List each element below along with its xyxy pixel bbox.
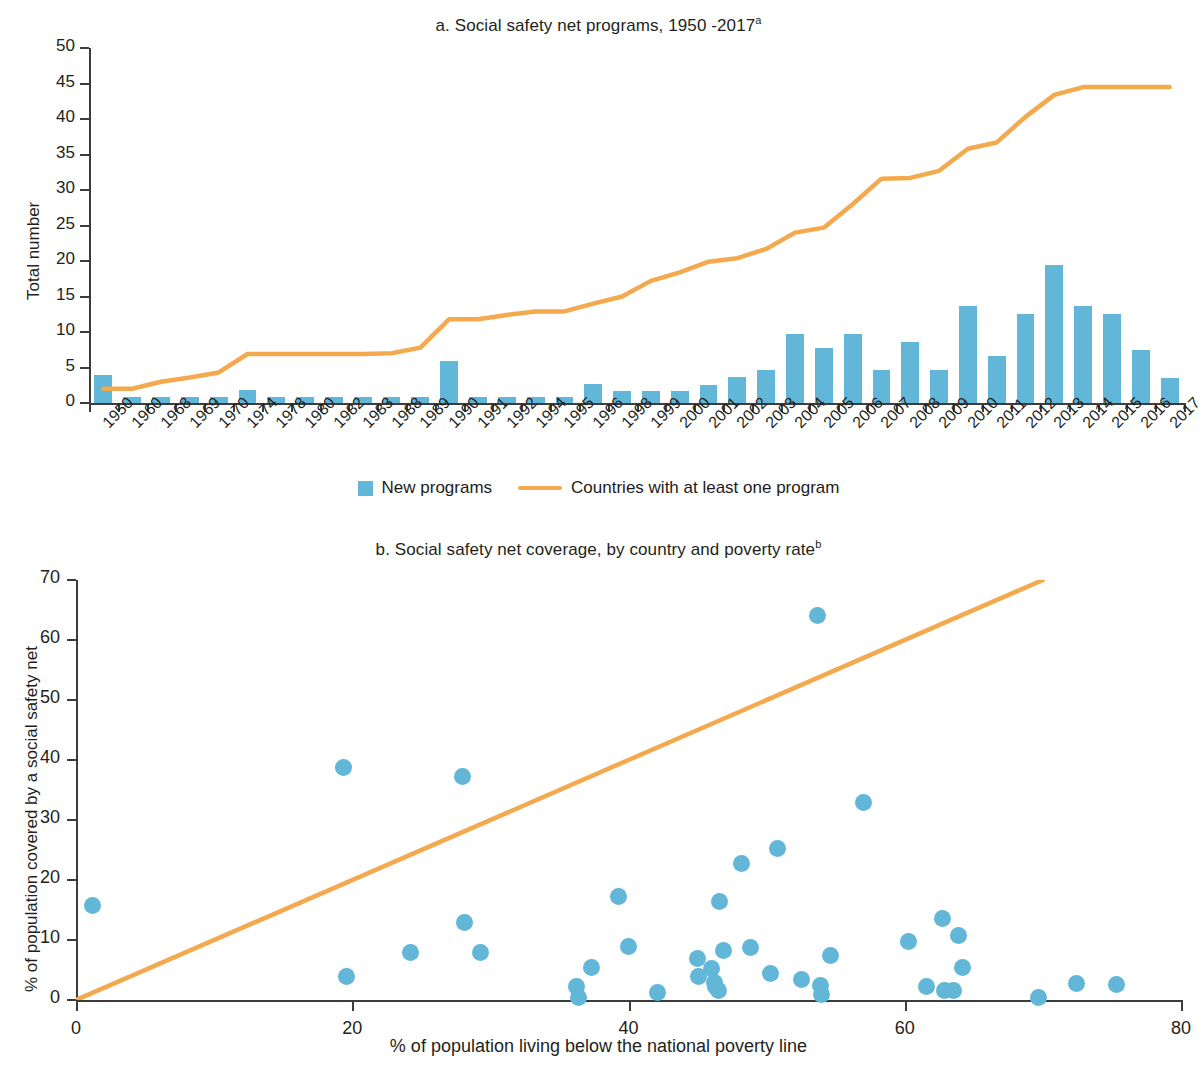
panel-a-y-tick <box>80 367 89 369</box>
panel-a-y-tick-label: 30 <box>23 178 75 198</box>
panel-a-legend: New programs Countries with at least one… <box>0 478 1197 498</box>
legend-item-new-programs: New programs <box>358 478 493 498</box>
panel-a-y-tick-label: 15 <box>23 285 75 305</box>
panel-a-y-tick <box>80 260 89 262</box>
scatter-point <box>900 933 917 950</box>
panel-a-y-tick <box>80 189 89 191</box>
panel-a-title-footnote-marker: a <box>755 14 761 26</box>
scatter-point <box>809 607 826 624</box>
panel-b-social-safety-net-coverage: b. Social safety net coverage, by countr… <box>0 522 1197 1071</box>
scatter-point <box>945 982 962 999</box>
panel-b-y-tick-label: 20 <box>6 867 60 888</box>
panel-b-plot-area <box>76 580 1181 1000</box>
panel-b-y-tick <box>67 759 76 761</box>
scatter-point <box>742 939 759 956</box>
panel-a-y-tick <box>80 296 89 298</box>
scatter-point <box>711 893 728 910</box>
reference-trend-line <box>76 580 1043 1000</box>
bar-2006 <box>844 334 862 403</box>
scatter-point <box>454 768 471 785</box>
panel-a-y-tick-label: 10 <box>23 320 75 340</box>
panel-b-x-tick <box>352 1000 354 1011</box>
panel-a-y-tick-label: 40 <box>23 107 75 127</box>
legend-label-countries: Countries with at least one program <box>571 478 839 498</box>
panel-a-social-safety-net-programs: a. Social safety net programs, 1950 -201… <box>0 0 1197 520</box>
panel-a-y-tick <box>80 225 89 227</box>
panel-a-y-tick-label: 0 <box>23 391 75 411</box>
legend-item-countries-with-at-least-one-program: Countries with at least one program <box>518 478 839 498</box>
scatter-point <box>813 986 830 1003</box>
scatter-point <box>793 971 810 988</box>
panel-b-y-tick-label: 10 <box>6 927 60 948</box>
scatter-point <box>1030 989 1047 1006</box>
bar-2008 <box>901 342 919 403</box>
panel-b-y-tick <box>67 819 76 821</box>
panel-a-y-tick-label: 35 <box>23 143 75 163</box>
panel-a-y-tick <box>80 118 89 120</box>
bar-2013 <box>1045 265 1063 403</box>
panel-b-title-footnote-marker: b <box>815 538 821 550</box>
scatter-point <box>610 888 627 905</box>
bar-2012 <box>1017 314 1035 403</box>
panel-b-y-tick <box>67 879 76 881</box>
panel-a-x-tick <box>89 403 91 412</box>
panel-b-y-tick <box>67 639 76 641</box>
bar-2010 <box>959 306 977 403</box>
panel-b-title-text: b. Social safety net coverage, by countr… <box>376 540 816 559</box>
panel-b-x-tick <box>629 1000 631 1011</box>
scatter-point <box>620 938 637 955</box>
panel-b-x-axis-label: % of population living below the nationa… <box>0 1036 1197 1057</box>
panel-b-y-tick <box>67 939 76 941</box>
bar-2015 <box>1103 314 1121 403</box>
scatter-point <box>1068 975 1085 992</box>
scatter-point <box>402 944 419 961</box>
bar-2014 <box>1074 306 1092 403</box>
panel-b-y-tick-label: 30 <box>6 807 60 828</box>
panel-b-x-tick <box>76 1000 78 1011</box>
panel-a-y-tick <box>80 402 89 404</box>
panel-b-y-tick-label: 40 <box>6 747 60 768</box>
scatter-point <box>570 989 587 1006</box>
panel-a-title-text: a. Social safety net programs, 1950 -201… <box>436 16 756 35</box>
panel-b-y-tick-label: 60 <box>6 627 60 648</box>
panel-b-y-tick <box>67 579 76 581</box>
new-programs-swatch-icon <box>358 481 373 496</box>
panel-a-y-tick-label: 45 <box>23 72 75 92</box>
panel-b-y-tick-label: 70 <box>6 567 60 588</box>
panel-a-y-tick <box>80 47 89 49</box>
scatter-point <box>583 959 600 976</box>
panel-a-y-tick-label: 20 <box>23 249 75 269</box>
scatter-point <box>456 914 473 931</box>
panel-b-y-tick-label: 0 <box>6 987 60 1008</box>
panel-b-y-tick-label: 50 <box>6 687 60 708</box>
scatter-point <box>822 947 839 964</box>
scatter-point <box>710 982 727 999</box>
scatter-point <box>934 910 951 927</box>
bar-1950 <box>94 375 112 403</box>
panel-a-y-tick <box>80 83 89 85</box>
panel-a-title: a. Social safety net programs, 1950 -201… <box>0 14 1197 36</box>
panel-b-y-tick <box>67 699 76 701</box>
panel-a-y-tick-label: 25 <box>23 214 75 234</box>
panel-a-y-tick-label: 50 <box>23 36 75 56</box>
scatter-point <box>733 855 750 872</box>
scatter-point <box>84 897 101 914</box>
scatter-point <box>1108 976 1125 993</box>
panel-a-y-tick <box>80 331 89 333</box>
panel-b-x-tick <box>905 1000 907 1011</box>
panel-a-plot-area <box>89 48 1184 403</box>
panel-a-y-tick-label: 5 <box>23 356 75 376</box>
panel-b-title: b. Social safety net coverage, by countr… <box>0 538 1197 560</box>
panel-b-x-tick <box>1181 1000 1183 1011</box>
scatter-point <box>855 794 872 811</box>
bar-2004 <box>786 334 804 403</box>
legend-label-new-programs: New programs <box>382 478 493 498</box>
panel-a-y-tick <box>80 154 89 156</box>
countries-line-swatch-icon <box>518 486 562 490</box>
scatter-point <box>472 944 489 961</box>
panel-b-y-tick <box>67 999 76 1001</box>
